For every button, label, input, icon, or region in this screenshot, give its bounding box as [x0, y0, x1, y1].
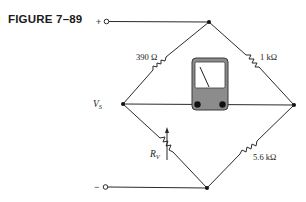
variable-resistor-rv: [123, 104, 207, 188]
meter: [192, 58, 228, 110]
variable-resistor-label: RV: [149, 149, 161, 160]
meter-terminal-left: [194, 101, 200, 107]
node-right: [292, 103, 296, 107]
positive-terminal: [104, 19, 109, 24]
resistor-1k-label: 1 kΩ: [260, 52, 277, 62]
node-top: [207, 20, 211, 24]
negative-terminal: [103, 185, 108, 190]
source-voltage-label: VS: [93, 99, 103, 110]
negative-lead-wire: [108, 187, 207, 188]
resistor-5-6k-label: 5.6 kΩ: [253, 152, 276, 162]
meter-face: [195, 62, 225, 88]
node-left: [121, 102, 125, 106]
resistor-5-6k: [207, 105, 294, 188]
positive-lead-wire: [109, 22, 209, 23]
positive-sign-label: +: [96, 17, 101, 27]
resistor-390-ohm-label: 390 Ω: [136, 52, 157, 62]
meter-terminal-right: [219, 101, 225, 107]
negative-sign-label: −: [94, 182, 99, 192]
node-bottom: [205, 186, 209, 190]
bridge-circuit-diagram: + − VS 390 Ω 1 kΩ RV 5.6 kΩ: [0, 0, 306, 202]
